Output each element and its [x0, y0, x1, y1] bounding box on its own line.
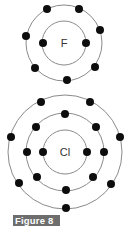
electron: [62, 204, 70, 212]
electron: [116, 133, 124, 141]
bohr-diagram: F Cl: [0, 0, 130, 226]
figure-label: Figure 8: [13, 215, 60, 226]
electron: [100, 148, 108, 156]
electron: [32, 123, 40, 131]
electron: [96, 26, 104, 34]
electron: [92, 123, 100, 131]
fluorine-symbol: F: [61, 37, 68, 49]
electron: [33, 173, 41, 181]
electron: [43, 5, 51, 13]
chlorine-atom: Cl: [7, 95, 124, 212]
electron: [75, 5, 83, 13]
electron: [86, 98, 94, 106]
electron: [7, 133, 15, 141]
electron: [89, 173, 97, 181]
electron: [91, 63, 99, 71]
fluorine-atom: F: [22, 5, 104, 84]
chlorine-symbol: Cl: [60, 146, 70, 158]
electron: [62, 186, 70, 194]
electron: [107, 180, 115, 188]
electron: [15, 179, 23, 187]
electron: [61, 110, 69, 118]
electron: [23, 148, 31, 156]
electron: [82, 39, 90, 47]
electron: [39, 148, 47, 156]
electron: [83, 148, 91, 156]
electron: [31, 64, 39, 72]
electron: [37, 98, 45, 106]
electron: [39, 39, 47, 47]
electron: [22, 32, 30, 40]
electron: [63, 76, 71, 84]
